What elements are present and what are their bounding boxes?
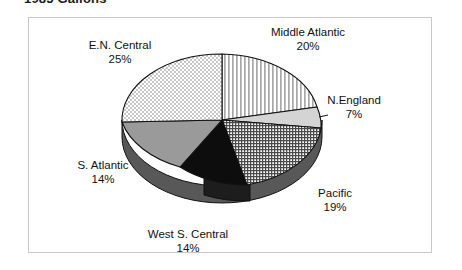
pie-label-en-central-name: E.N. Central [72,38,168,52]
pie-label-middle-atlantic-value: 20% [253,39,363,53]
pie-label-n-england-value: 7% [310,107,398,121]
pie-label-pacific-name: Pacific [300,186,370,200]
pie-label-west-s-central: West S. Central 14% [128,227,248,255]
pie-label-s-atlantic-value: 14% [60,172,146,186]
pie-label-n-england-name: N.England [310,93,398,107]
pie-label-en-central: E.N. Central 25% [72,38,168,66]
pie-label-s-atlantic: S. Atlantic 14% [60,158,146,186]
pie-label-en-central-value: 25% [72,52,168,66]
pie-slices [122,54,321,185]
chart-title: 1985 Gallons [24,0,107,6]
pie-chart-figure: 1985 Gallons [0,0,462,270]
pie-label-middle-atlantic: Middle Atlantic 20% [253,25,363,53]
pie-label-middle-atlantic-name: Middle Atlantic [253,25,363,39]
pie-label-s-atlantic-name: S. Atlantic [60,158,146,172]
pie-label-pacific: Pacific 19% [300,186,370,214]
pie-label-west-s-central-value: 14% [128,241,248,255]
pie-label-west-s-central-name: West S. Central [128,227,248,241]
pie-label-pacific-value: 19% [300,200,370,214]
pie-label-n-england: N.England 7% [310,93,398,121]
